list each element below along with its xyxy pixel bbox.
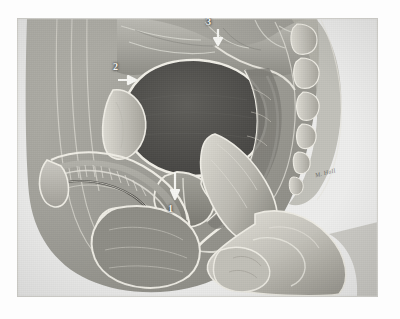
label-2: 2 <box>113 62 118 72</box>
label-3: 3 <box>206 18 211 27</box>
label-3-arrow <box>213 28 225 50</box>
label-1: 1 <box>168 204 173 214</box>
illustration-figure: 3 2 1 M. Hall <box>0 0 400 319</box>
label-1-arrow <box>169 171 181 205</box>
anatomical-plate: 3 2 1 <box>17 18 378 297</box>
anatomy-drawing <box>17 18 378 297</box>
label-2-arrow <box>117 74 141 86</box>
